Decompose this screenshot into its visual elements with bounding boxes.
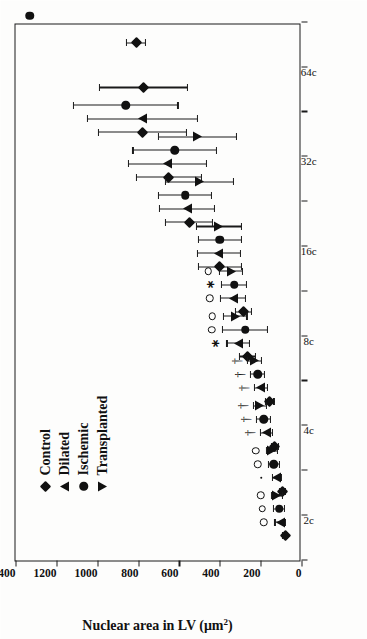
triangle-down-marker: [192, 131, 201, 141]
triangle-up-marker: [256, 382, 265, 392]
legend-item-control[interactable]: Control: [36, 347, 54, 497]
y-axis-title: Nuclear area in LV (μm2): [82, 616, 232, 634]
triangle-down-marker: [267, 445, 276, 455]
error-bar-cap: [157, 191, 158, 198]
triangle-up-marker: [233, 338, 242, 348]
significance-dagger-icon: †: [230, 358, 242, 364]
legend-marker-wrapper: [37, 475, 53, 497]
significance-open-circle-icon: [204, 267, 212, 275]
error-bar-cap: [214, 205, 215, 212]
significance-dagger-icon: †: [233, 371, 245, 377]
y-axis-title-close: ): [228, 618, 233, 633]
circle-marker: [25, 11, 34, 20]
triangle-down-marker: [230, 311, 239, 321]
error-bar-cap: [246, 312, 247, 319]
chart-legend: ControlDilatedIschemicTransplanted: [36, 347, 112, 497]
error-bar-cap: [253, 384, 254, 391]
significance-open-circle-icon: [260, 518, 268, 526]
error-bar-cap: [263, 370, 264, 377]
significance-dagger-icon: †: [237, 384, 249, 390]
error-bar-cap: [98, 84, 99, 91]
y-axis-tick-label: 200: [243, 566, 260, 578]
error-bar-cap: [245, 281, 246, 288]
circle-marker: [259, 415, 268, 424]
error-bar-cap: [235, 133, 236, 140]
figure-rotator: Nuclear area in LV (μm2) ††∗††∗†† 2c4c8c…: [0, 0, 367, 639]
x-axis-tick: [301, 290, 307, 291]
y-axis-tick-label: 800: [120, 566, 137, 578]
error-bar-cap: [86, 115, 87, 122]
y-axis-tick: [97, 560, 98, 566]
diamond-marker: [183, 216, 194, 227]
triangle-down-marker: [272, 490, 281, 500]
error-bar-cap: [73, 101, 74, 108]
y-axis-tick: [15, 560, 16, 566]
triangle-down-marker: [194, 176, 203, 186]
significance-asterisk-icon: ∗: [210, 338, 221, 347]
error-bar-cap: [186, 84, 187, 91]
significance-dagger-icon: †: [243, 429, 255, 435]
error-bar-cap: [252, 402, 253, 409]
legend-item-label: Control: [37, 429, 53, 475]
error-bar-cap: [240, 263, 241, 270]
x-axis-tick: [301, 469, 307, 470]
legend-item-label: Dilated: [56, 431, 72, 475]
error-bar-cap: [226, 339, 227, 346]
significance-asterisk-icon: ∗: [205, 280, 216, 289]
error-bar-cap: [135, 173, 136, 180]
y-axis-tick: [138, 560, 139, 566]
error-bar-cap: [240, 223, 241, 230]
significance-open-circle-icon: [253, 460, 261, 468]
error-bar-cap: [196, 115, 197, 122]
significance-open-circle-icon: [251, 446, 259, 454]
error-bar-cap: [240, 236, 241, 243]
significance-dagger-icon: †: [236, 402, 248, 408]
error-bar-cap: [158, 205, 159, 212]
circle-marker: [229, 280, 238, 289]
triangle-up-marker: [262, 427, 271, 437]
error-bar-cap: [222, 312, 223, 319]
y-axis-tick-label: 1000: [74, 566, 97, 578]
circle-marker: [269, 459, 278, 468]
triangle-down-marker: [250, 356, 259, 366]
error-bar-cap: [132, 146, 133, 153]
significance-dagger-icon: †: [239, 416, 251, 422]
circle-marker: [253, 370, 262, 379]
circle-marker: [274, 504, 283, 513]
y-axis-tick: [56, 560, 57, 566]
diamond-marker: [137, 81, 148, 92]
triangle-down-marker: [98, 481, 107, 491]
error-bar-cap: [250, 308, 251, 315]
x-axis-tick: [301, 21, 307, 22]
significance-open-circle-icon: [206, 294, 214, 302]
error-bar-cap: [247, 357, 248, 364]
legend-item-label: Transplanted: [94, 395, 110, 475]
y-axis-tick-label: 1200: [33, 566, 56, 578]
y-axis-tick-label: 600: [161, 566, 178, 578]
diamond-marker: [279, 530, 290, 541]
x-axis-tick-label: 16c: [300, 245, 316, 257]
error-bar-cap: [239, 249, 240, 256]
legend-item-transplanted[interactable]: Transplanted: [93, 347, 111, 497]
legend-item-dilated[interactable]: Dilated: [55, 347, 73, 497]
error-bar-cap: [270, 415, 271, 422]
triangle-up-marker: [163, 158, 172, 168]
x-axis-tick-label: 4c: [303, 424, 313, 436]
y-axis-tick: [178, 560, 179, 566]
error-bar-cap: [218, 267, 219, 274]
significance-dot-icon: [259, 476, 262, 479]
significance-open-circle-icon: [208, 325, 216, 333]
legend-item-ischemic[interactable]: Ischemic: [74, 347, 92, 497]
error-bar-cap: [97, 128, 98, 135]
error-bar-cap: [177, 101, 178, 108]
x-axis-tick: [301, 200, 307, 201]
y-axis-tick-label: 1400: [0, 566, 15, 578]
error-bar-cap: [197, 263, 198, 270]
triangle-up-marker: [228, 293, 237, 303]
error-bar-cap: [128, 160, 129, 167]
circle-marker: [215, 235, 224, 244]
error-bar-cap: [248, 339, 249, 346]
error-bar-cap: [221, 281, 222, 288]
error-bar-cap: [222, 326, 223, 333]
x-axis-tick: [301, 110, 307, 111]
